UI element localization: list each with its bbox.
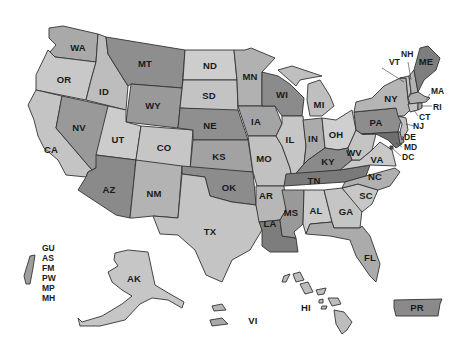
label-ks: KS [212,151,226,162]
label-al: AL [309,205,322,216]
label-dc: DC [402,152,414,162]
territory-vi[interactable] [210,304,228,326]
label-gu: GU [42,243,55,253]
label-oh: OH [329,129,344,140]
label-wa: WA [70,42,86,53]
label-de: DE [404,132,416,142]
label-mt: MT [138,58,152,69]
label-nm: NM [146,188,161,199]
label-wi: WI [276,89,288,100]
label-nc: NC [368,171,382,182]
label-mi: MI [314,99,325,110]
label-ri: RI [433,102,442,112]
label-md: MD [404,142,417,152]
label-mp: MP [42,283,55,293]
label-wv: WV [346,147,362,158]
state-ma[interactable] [408,92,430,104]
label-nj: NJ [413,121,424,131]
label-ga: GA [339,206,354,217]
label-ma: MA [431,86,444,96]
state-ak[interactable] [78,250,184,326]
label-mo: MO [256,153,272,164]
label-tn: TN [307,175,320,186]
label-ok: OK [222,182,237,193]
us-map: WA OR CA ID NV MT WY UT AZ CO NM ND SD N… [0,0,462,353]
label-fl: FL [364,252,376,263]
label-vi: VI [248,315,257,326]
label-as: AS [42,253,54,263]
label-ny: NY [384,93,398,104]
label-nd: ND [203,60,217,71]
label-tx: TX [204,226,217,237]
label-ut: UT [111,134,124,145]
label-mn: MN [242,71,257,82]
label-ms: MS [284,207,299,218]
label-il: IL [286,134,295,145]
territory-pacific-island[interactable] [24,255,35,284]
label-vt: VT [389,57,401,67]
label-hi: HI [301,302,311,313]
state-ri[interactable] [418,103,422,110]
label-or: OR [57,74,72,85]
label-fm: FM [42,263,54,273]
label-in: IN [308,133,318,144]
label-me: ME [419,56,434,67]
state-me[interactable] [414,46,440,92]
label-sc: SC [359,190,373,201]
label-az: AZ [102,184,115,195]
label-nv: NV [72,122,86,133]
label-ia: IA [251,116,261,127]
label-pr: PR [410,302,424,313]
label-pa: PA [370,117,383,128]
label-va: VA [371,154,384,165]
label-ar: AR [259,190,273,201]
state-ct[interactable] [408,103,418,112]
label-la: LA [263,218,276,229]
label-co: CO [157,142,172,153]
label-id: ID [99,86,109,97]
label-mh: MH [42,293,55,303]
state-hi[interactable] [282,272,352,334]
label-sd: SD [202,90,216,101]
label-wy: WY [145,100,161,111]
label-nh: NH [401,49,413,59]
label-ne: NE [203,120,217,131]
pacific-territories-list: GU AS FM PW MP MH [42,243,57,303]
label-ky: KY [321,156,335,167]
label-ak: AK [127,273,141,284]
label-ca: CA [44,144,58,155]
label-pw: PW [42,273,57,283]
